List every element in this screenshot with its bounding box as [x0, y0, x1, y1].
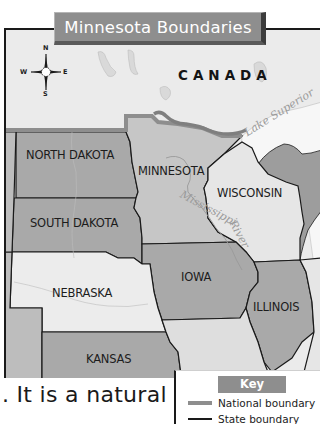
- label-minnesota: MINNESOTA: [138, 164, 204, 178]
- key-title: Key: [218, 376, 286, 393]
- state-boundary-swatch-icon: [188, 418, 212, 420]
- map-title: Minnesota Boundaries: [64, 18, 251, 37]
- map-title-banner: Minnesota Boundaries: [54, 12, 266, 45]
- label-iowa: IOWA: [181, 270, 211, 284]
- key-item-state-boundary: State boundary: [188, 413, 299, 424]
- compass-south: S: [43, 90, 48, 98]
- label-wisconsin: WISCONSIN: [217, 186, 282, 200]
- label-north-dakota: NORTH DAKOTA: [26, 148, 114, 162]
- compass-rose-icon: N S E W: [26, 46, 66, 98]
- label-south-dakota: SOUTH DAKOTA: [30, 216, 118, 230]
- compass-east: E: [63, 68, 67, 76]
- compass-west: W: [20, 68, 27, 76]
- body-text-fragment: . It is a natural: [2, 382, 167, 407]
- key-label-state: State boundary: [218, 413, 299, 424]
- national-boundary-swatch-icon: [188, 401, 212, 405]
- label-canada: CANADA: [178, 67, 272, 83]
- key-item-national-boundary: National boundary: [188, 397, 315, 409]
- label-nebraska: NEBRASKA: [52, 286, 112, 300]
- map-key: Key National boundary State boundary: [174, 370, 320, 424]
- label-kansas: KANSAS: [86, 352, 131, 366]
- key-label-national: National boundary: [218, 397, 315, 409]
- label-illinois: ILLINOIS: [253, 300, 299, 314]
- compass-north: N: [43, 44, 48, 52]
